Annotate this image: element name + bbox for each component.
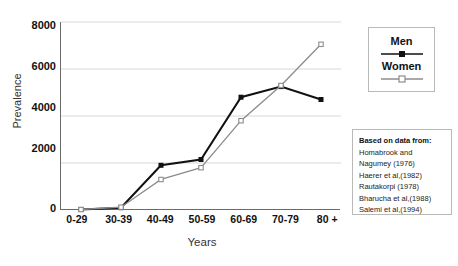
series-line-men: [81, 87, 321, 210]
plot-canvas: [61, 22, 341, 210]
data-point-men: [239, 95, 244, 100]
x-tick-label: 70-79: [265, 213, 307, 229]
x-tick-label: 80 +: [306, 213, 348, 229]
source-line: Rautakorpi (1978): [359, 181, 446, 193]
y-tick-label: 8000: [12, 20, 56, 30]
x-tick-label: 60-69: [223, 213, 265, 229]
y-tick-label: 6000: [12, 61, 56, 71]
source-line: Homabrook and: [359, 147, 446, 159]
data-point-women: [119, 205, 123, 209]
data-point-men: [319, 97, 324, 102]
source-line: Bharucha et al,(1988): [359, 193, 446, 205]
x-axis-title: Years: [56, 236, 348, 248]
chart-figure: Prevalence 8000 6000 4000 2000 0 0-2930-…: [0, 0, 458, 266]
x-tick-label: 0-29: [56, 213, 98, 229]
y-tick-label: 0: [12, 203, 56, 213]
data-point-women: [159, 177, 163, 181]
data-point-men: [159, 163, 164, 168]
y-axis-tick-labels: 8000 6000 4000 2000 0: [8, 0, 56, 266]
source-line: Haerer et al,(1982): [359, 170, 446, 182]
x-axis-tick-labels: 0-2930-3940-4950-5960-6970-7980 +: [56, 213, 348, 229]
x-tick-label: 30-39: [98, 213, 140, 229]
x-tick-label: 40-49: [139, 213, 181, 229]
data-point-women: [239, 119, 243, 123]
legend-swatch-men: [379, 49, 425, 59]
data-point-women: [319, 42, 323, 46]
y-tick-label: 4000: [12, 102, 56, 112]
data-series-layer: [79, 42, 324, 212]
chart-legend: Men Women: [368, 27, 435, 92]
plot-area: [60, 22, 340, 210]
data-point-women: [279, 83, 283, 87]
source-line: Salemi et al,(1994): [359, 204, 446, 216]
legend-swatch-women: [379, 74, 425, 84]
source-heading: Based on data from:: [359, 135, 446, 147]
x-tick-label: 50-59: [181, 213, 223, 229]
data-point-women: [199, 166, 203, 170]
legend-label-men: Men: [391, 35, 413, 48]
data-point-men: [199, 157, 204, 162]
source-citation-box: Based on data from: Homabrook and Nagume…: [352, 129, 452, 215]
legend-label-women: Women: [382, 60, 422, 73]
data-point-women: [79, 207, 83, 211]
source-line: Nagumey (1976): [359, 158, 446, 170]
y-tick-label: 2000: [12, 143, 56, 153]
